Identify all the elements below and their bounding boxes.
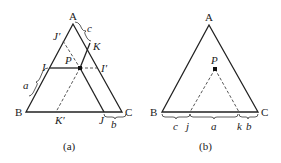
point-p	[213, 67, 217, 71]
point-j-label: j	[184, 120, 189, 132]
brace-b	[239, 114, 258, 119]
point-p-label: P	[64, 54, 72, 66]
segment-a-label: a	[23, 79, 29, 91]
segment-b-label: b	[246, 120, 252, 132]
panel-b: A B C P c j a k b (b)	[150, 11, 268, 153]
point-jprime-label: J′	[53, 30, 61, 42]
point-k-label: k	[237, 120, 243, 132]
point-iprime-label: I′	[100, 62, 108, 74]
segment-c-label: c	[173, 120, 178, 132]
ternary-diagram-figure: A B C P I I′ J′ K K′ J c a b (a) A B C P…	[0, 0, 281, 163]
vertex-c-label: C	[261, 106, 268, 118]
vertex-a-label: A	[205, 11, 213, 23]
brace-c	[162, 114, 190, 119]
vertex-a-label: A	[69, 10, 77, 22]
line-p-j	[80, 68, 104, 112]
segment-b-label: b	[111, 118, 117, 130]
panel-a: A B C P I I′ J′ K K′ J c a b (a)	[15, 10, 132, 153]
segment-a-label: a	[211, 120, 217, 132]
dashed-p-k	[215, 69, 239, 112]
point-k-label: K	[92, 40, 101, 52]
dashed-p-kprime	[56, 68, 80, 112]
vertex-b-label: B	[150, 106, 157, 118]
caption-b: (b)	[199, 140, 212, 153]
point-p-label: P	[210, 54, 218, 66]
brace-a	[190, 114, 238, 119]
triangle-abc	[162, 25, 258, 112]
point-kprime-label: K′	[54, 114, 65, 126]
segment-c-label: c	[87, 22, 92, 34]
point-i-label: I	[41, 61, 47, 73]
dashed-p-j	[190, 69, 215, 112]
vertex-c-label: C	[125, 106, 132, 118]
vertex-b-label: B	[15, 106, 22, 118]
point-p	[78, 66, 82, 70]
caption-a: (a)	[63, 140, 76, 153]
